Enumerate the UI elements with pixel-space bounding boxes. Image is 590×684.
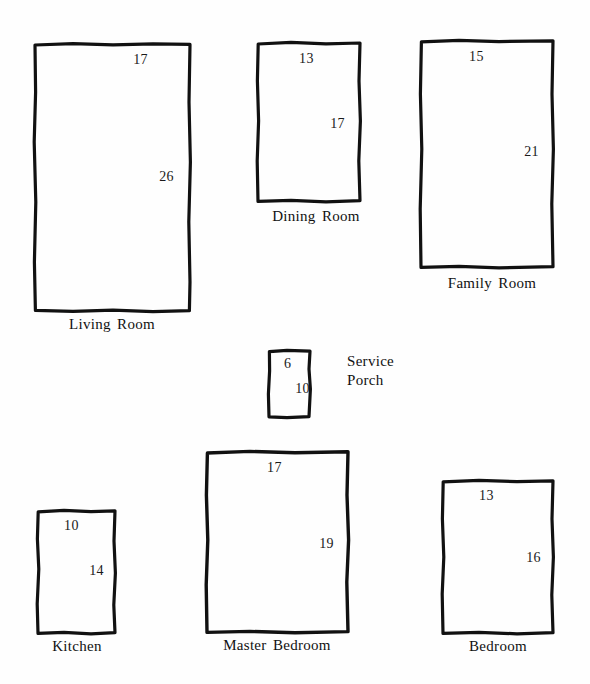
floor-plan-diagram: 17 26 LivingRoom 13 17 DiningRoom 15 21 … <box>0 0 590 684</box>
room-family-room: 15 21 <box>419 39 555 269</box>
dimension-width-living-room: 17 <box>133 53 148 67</box>
room-label-living-room-word2: Room <box>117 316 155 332</box>
dimension-width-master-bedroom: 17 <box>267 461 282 475</box>
dimension-width-kitchen: 10 <box>64 519 79 533</box>
dimension-height-dining-room: 17 <box>330 117 345 131</box>
dimension-width-service-porch: 6 <box>284 357 291 371</box>
room-label-living-room: LivingRoom <box>69 316 155 333</box>
room-label-family-room: FamilyRoom <box>448 275 536 292</box>
room-living-room: 17 26 <box>33 42 192 313</box>
room-label-service-porch-line2: Porch <box>347 371 394 390</box>
room-label-kitchen-word1: Kitchen <box>52 638 102 654</box>
room-bedroom: 13 16 <box>441 479 555 635</box>
dimension-width-dining-room: 13 <box>299 52 314 66</box>
room-label-kitchen: Kitchen <box>52 638 102 655</box>
dimension-height-living-room: 26 <box>159 170 174 184</box>
room-label-service-porch: Service Porch <box>347 352 394 390</box>
dimension-height-family-room: 21 <box>524 145 539 159</box>
dimension-height-service-porch: 10 <box>295 382 310 396</box>
room-label-bedroom-word1: Bedroom <box>469 638 527 654</box>
room-label-service-porch-line1: Service <box>347 352 394 371</box>
room-label-master-bedroom-word1: Master <box>223 637 266 653</box>
room-master-bedroom: 17 19 <box>205 450 350 634</box>
dimension-height-bedroom: 16 <box>526 551 541 565</box>
room-label-dining-room-word1: Dining <box>272 208 315 224</box>
room-dining-room: 13 17 <box>256 41 362 203</box>
dimension-height-master-bedroom: 19 <box>319 537 334 551</box>
room-label-living-room-word1: Living <box>69 316 111 332</box>
dimension-width-family-room: 15 <box>469 50 484 64</box>
room-label-dining-room-word2: Room <box>322 208 360 224</box>
room-kitchen: 10 14 <box>36 509 117 635</box>
room-label-family-room-word2: Room <box>498 275 536 291</box>
room-label-master-bedroom: MasterBedroom <box>223 637 331 654</box>
room-label-family-room-word1: Family <box>448 275 492 291</box>
dimension-width-bedroom: 13 <box>479 489 494 503</box>
room-label-dining-room: DiningRoom <box>272 208 360 225</box>
room-label-bedroom: Bedroom <box>469 638 527 655</box>
dimension-height-kitchen: 14 <box>89 564 104 578</box>
room-label-master-bedroom-word2: Bedroom <box>273 637 331 653</box>
room-service-porch: 6 10 <box>267 349 312 419</box>
